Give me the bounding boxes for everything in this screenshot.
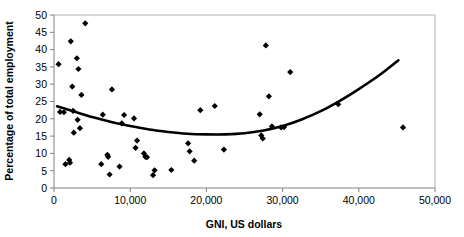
y-tick-label: 20	[35, 113, 47, 125]
y-tick-label: 0	[41, 182, 47, 194]
x-tick-label: 0	[51, 194, 57, 206]
y-tick-label: 15	[35, 130, 47, 142]
y-tick-label: 30	[35, 78, 47, 90]
y-tick-label: 45	[35, 26, 47, 38]
scatter-chart: 05101520253035404550 010,00020,00030,000…	[0, 0, 464, 237]
x-axis-title: GNI, US dollars	[206, 218, 283, 230]
x-tick-label: 40,000	[343, 194, 375, 206]
y-tick-label: 5	[41, 165, 47, 177]
y-tick-label: 25	[35, 95, 47, 107]
x-tick-label: 20,000	[190, 194, 222, 206]
chart-background	[0, 0, 464, 237]
y-tick-label: 50	[35, 9, 47, 21]
y-axis-title: Percentage of total employment	[3, 21, 15, 181]
chart-canvas: 05101520253035404550 010,00020,00030,000…	[0, 0, 464, 237]
y-tick-label: 10	[35, 147, 47, 159]
y-tick-label: 40	[35, 43, 47, 55]
x-tick-label: 10,000	[114, 194, 146, 206]
y-tick-label: 35	[35, 61, 47, 73]
x-tick-label: 30,000	[267, 194, 299, 206]
x-tick-label: 50,000	[419, 194, 451, 206]
